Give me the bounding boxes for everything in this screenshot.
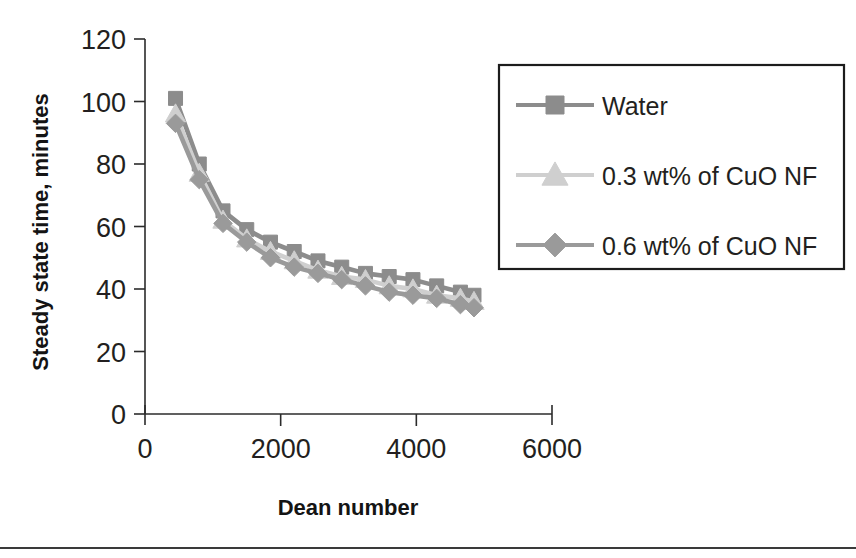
y-tick-label: 80	[96, 150, 126, 180]
plot-area	[165, 91, 484, 317]
x-tick-label: 6000	[522, 434, 582, 464]
y-tick-label: 60	[96, 213, 126, 243]
y-tick-label-group: 020406080100120	[81, 25, 126, 430]
y-tick-label: 40	[96, 275, 126, 305]
x-tick-label-group: 0200040006000	[137, 434, 582, 464]
legend-label: 0.6 wt% of CuO NF	[602, 232, 817, 260]
x-axis-title: Dean number	[278, 495, 419, 520]
page-divider	[0, 547, 856, 549]
y-axis-title: Steady state time, minutes	[28, 93, 53, 371]
x-tick-label: 2000	[251, 434, 311, 464]
x-axis: 0200040006000 Dean number	[137, 405, 582, 520]
x-tick-label: 4000	[386, 434, 446, 464]
x-tick-label: 0	[137, 434, 152, 464]
y-tick-label: 120	[81, 25, 126, 55]
y-axis: 020406080100120 Steady state time, minut…	[28, 25, 145, 430]
chart-legend: Water0.3 wt% of CuO NF0.6 wt% of CuO NF	[499, 65, 844, 269]
y-tick-label: 0	[111, 400, 126, 430]
y-tick-label: 20	[96, 338, 126, 368]
x-tick-group	[145, 405, 552, 426]
legend-label: 0.3 wt% of CuO NF	[602, 162, 817, 190]
legend-label: Water	[602, 92, 668, 120]
legend-marker-square-icon	[546, 96, 564, 114]
y-tick-label: 100	[81, 88, 126, 118]
y-tick-group	[134, 39, 145, 414]
chart-canvas: 020406080100120 Steady state time, minut…	[0, 0, 856, 558]
figure-container: 020406080100120 Steady state time, minut…	[0, 0, 856, 558]
